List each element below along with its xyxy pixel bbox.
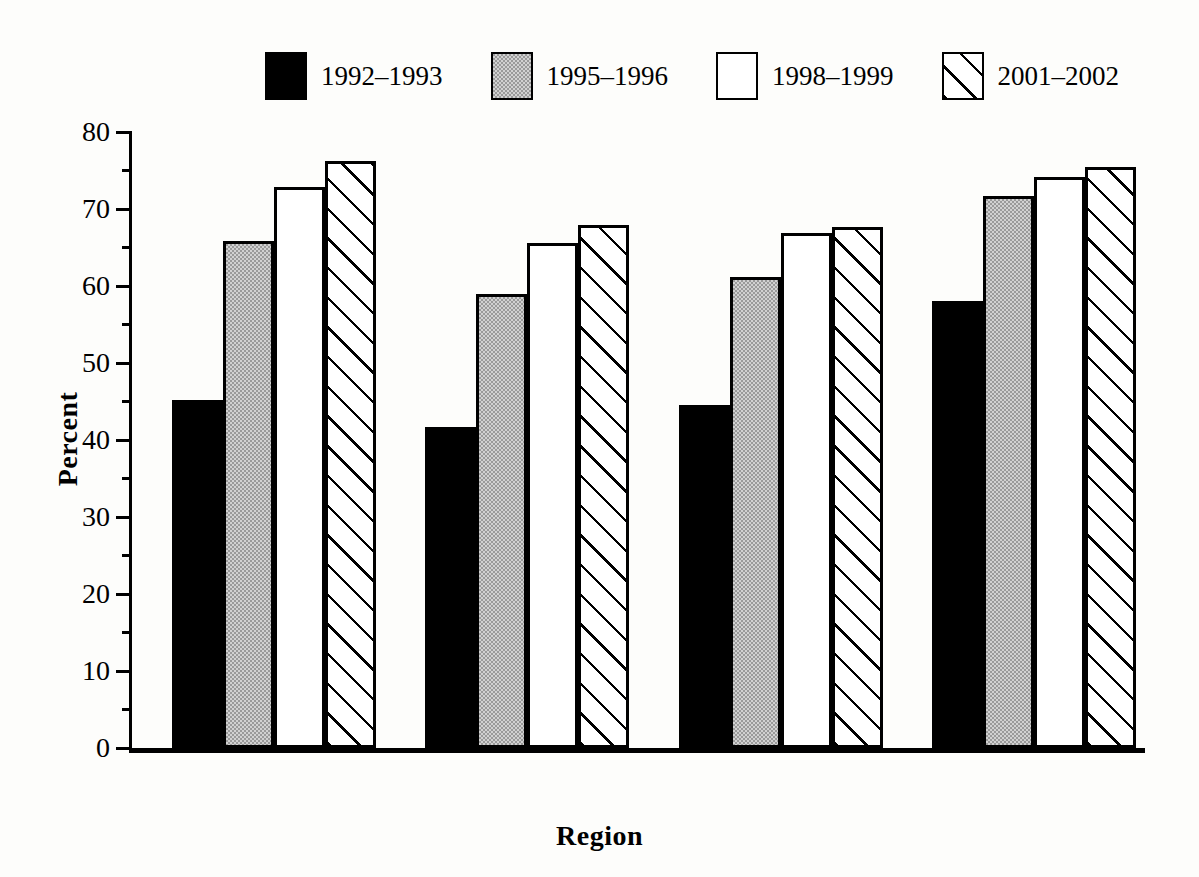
bar	[1085, 167, 1136, 748]
y-axis-major-tick	[116, 747, 132, 750]
bar	[932, 301, 983, 748]
bar	[781, 233, 832, 748]
bar	[983, 196, 1034, 748]
chart-legend: 1992–19931995–19961998–19992001–2002	[265, 50, 1119, 102]
legend-swatch-gray-icon	[491, 52, 533, 100]
legend-swatch-solid-black-icon	[265, 52, 307, 100]
y-axis-tick-label: 60	[82, 272, 110, 300]
x-axis-title: Region	[0, 820, 1199, 852]
y-axis-tick-label: 10	[82, 657, 110, 685]
y-axis-major-tick	[116, 593, 132, 596]
bar	[476, 294, 527, 748]
y-axis-minor-tick	[122, 554, 132, 557]
y-axis-major-tick	[116, 208, 132, 211]
bar	[325, 161, 376, 749]
y-axis-major-tick	[116, 362, 132, 365]
y-axis-minor-tick	[122, 400, 132, 403]
bar	[679, 405, 730, 748]
y-axis-tick-label: 40	[82, 426, 110, 454]
plot-area: 01020304050607080 NortheastMidwestSouthW…	[132, 132, 1145, 748]
legend-entry: 2001–2002	[942, 52, 1120, 100]
y-axis-title: Percent	[52, 391, 84, 486]
bar	[425, 427, 476, 748]
bar	[223, 241, 274, 748]
bar	[1034, 177, 1085, 748]
bar	[274, 187, 325, 748]
legend-swatch-white-icon	[716, 52, 758, 100]
y-axis-tick-label: 50	[82, 349, 110, 377]
y-axis-minor-tick	[122, 246, 132, 249]
bar	[172, 400, 223, 748]
y-axis-tick-label: 0	[96, 734, 110, 762]
y-axis-minor-tick	[122, 631, 132, 634]
y-axis-major-tick	[116, 131, 132, 134]
y-axis-minor-tick	[122, 323, 132, 326]
bar	[832, 227, 883, 748]
legend-label: 2001–2002	[998, 63, 1120, 90]
y-axis-major-tick	[116, 670, 132, 673]
bar	[527, 243, 578, 748]
legend-label: 1992–1993	[321, 63, 443, 90]
bar	[578, 225, 629, 748]
legend-label: 1995–1996	[547, 63, 669, 90]
y-axis-tick-label: 20	[82, 580, 110, 608]
bar-chart-figure: 1992–19931995–19961998–19992001–2002 010…	[0, 0, 1199, 877]
y-axis-minor-tick	[122, 169, 132, 172]
x-axis-line	[129, 748, 1145, 753]
y-axis-minor-tick	[122, 708, 132, 711]
bar	[730, 277, 781, 748]
y-axis-tick-label: 30	[82, 503, 110, 531]
y-axis-major-tick	[116, 516, 132, 519]
legend-entry: 1992–1993	[265, 52, 491, 100]
legend-entry: 1995–1996	[491, 52, 717, 100]
legend-swatch-hatch-icon	[942, 52, 984, 100]
y-axis-major-tick	[116, 439, 132, 442]
y-axis-major-tick	[116, 285, 132, 288]
y-axis-minor-tick	[122, 477, 132, 480]
legend-entry: 1998–1999	[716, 52, 942, 100]
legend-label: 1998–1999	[772, 63, 894, 90]
y-axis-tick-label: 80	[82, 118, 110, 146]
y-axis-tick-label: 70	[82, 195, 110, 223]
